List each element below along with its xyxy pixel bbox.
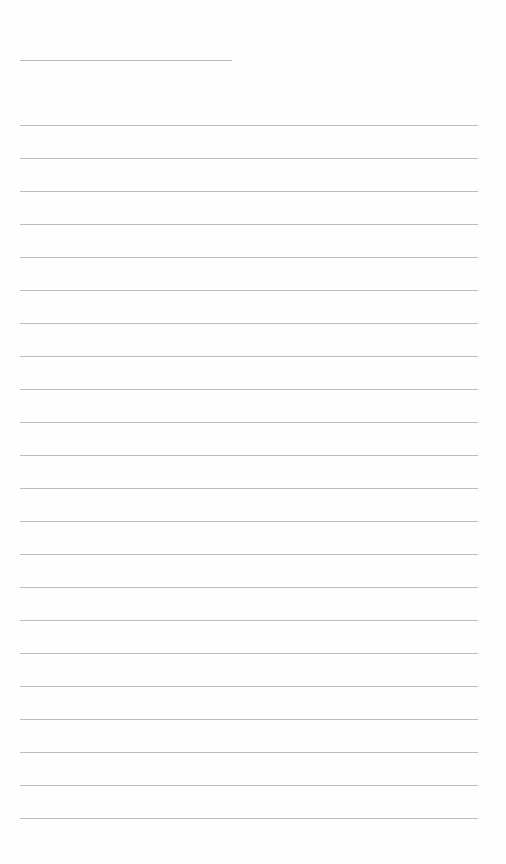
ruled-line [20, 818, 478, 819]
ruled-line [20, 620, 478, 621]
ruled-line [20, 752, 478, 753]
ruled-line [20, 587, 478, 588]
ruled-line [20, 719, 478, 720]
ruled-line [20, 554, 478, 555]
ruled-line [20, 323, 478, 324]
ruled-line [20, 290, 478, 291]
ruled-line [20, 158, 478, 159]
ruled-line [20, 653, 478, 654]
ruled-line [20, 422, 478, 423]
ruled-line [20, 389, 478, 390]
ruled-line [20, 488, 478, 489]
ruled-line [20, 455, 478, 456]
ruled-line [20, 356, 478, 357]
ruled-line [20, 224, 478, 225]
lined-paper-page [0, 0, 506, 864]
ruled-line [20, 686, 478, 687]
ruled-line [20, 257, 478, 258]
ruled-line [20, 125, 478, 126]
ruled-line [20, 191, 478, 192]
ruled-line [20, 785, 478, 786]
ruled-line [20, 521, 478, 522]
ruled-lines-area [20, 0, 478, 864]
